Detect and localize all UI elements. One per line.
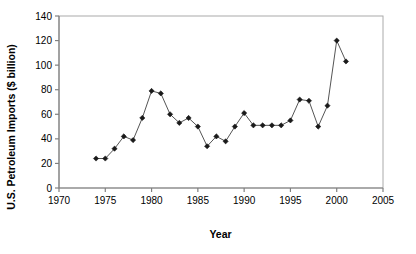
data-point-marker <box>325 103 330 108</box>
y-axis-tick-label: 100 <box>35 60 52 71</box>
data-point-marker <box>158 91 163 96</box>
data-point-marker <box>140 115 145 120</box>
line-chart-plot: 0204060801001201401970197519801985199019… <box>0 0 416 254</box>
data-point-marker <box>93 156 98 161</box>
x-axis-tick-label: 1970 <box>48 195 71 206</box>
chart-figure: U.S. Petroleum Imports ($ billion) 02040… <box>0 0 416 254</box>
y-axis-tick-label: 120 <box>35 35 52 46</box>
y-axis-tick-label: 140 <box>35 11 52 22</box>
y-axis-tick-label: 80 <box>41 84 53 95</box>
data-point-marker <box>288 118 293 123</box>
x-axis-tick-label: 1975 <box>94 195 117 206</box>
x-axis-tick-label: 1980 <box>140 195 163 206</box>
data-point-marker <box>149 88 154 93</box>
y-axis-tick-label: 40 <box>41 133 53 144</box>
data-point-marker <box>343 59 348 64</box>
x-axis-tick-label: 1990 <box>233 195 256 206</box>
y-axis-tick-label: 60 <box>41 109 53 120</box>
data-point-marker <box>306 98 311 103</box>
data-point-marker <box>130 137 135 142</box>
x-axis-title: Year <box>58 228 383 240</box>
data-point-marker <box>223 139 228 144</box>
data-point-marker <box>297 97 302 102</box>
plot-frame <box>59 16 383 188</box>
x-axis-tick-label: 2000 <box>326 195 349 206</box>
data-point-marker <box>269 123 274 128</box>
y-axis-tick-label: 20 <box>41 158 53 169</box>
data-point-marker <box>260 123 265 128</box>
x-axis-tick-label: 1985 <box>187 195 210 206</box>
data-point-marker <box>316 124 321 129</box>
y-axis-tick-label: 0 <box>46 183 52 194</box>
data-point-marker <box>334 38 339 43</box>
x-axis-tick-label: 2005 <box>372 195 395 206</box>
x-axis-tick-label: 1995 <box>279 195 302 206</box>
data-point-marker <box>279 123 284 128</box>
